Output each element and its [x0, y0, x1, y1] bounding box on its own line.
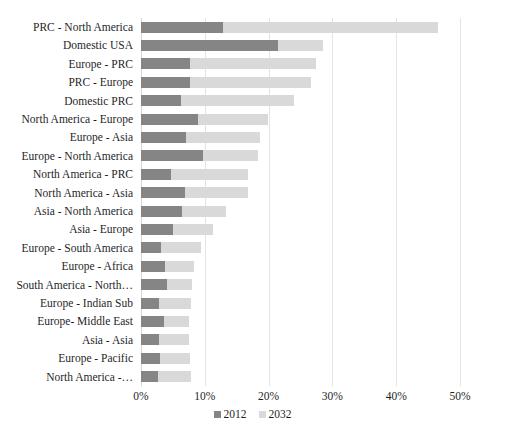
bar-row	[141, 202, 460, 220]
x-axis-tick: 50%	[449, 388, 470, 404]
legend-label: 2012	[224, 407, 247, 421]
bar-segment-2012	[141, 224, 173, 235]
bar-row	[141, 18, 460, 36]
bar-segment-2032	[203, 150, 259, 161]
bar-row	[141, 36, 460, 54]
bar-segment-2012	[141, 334, 159, 345]
chart-legend: 20122032	[0, 407, 505, 421]
category-label: Europe - South America	[22, 239, 133, 257]
category-label: Asia - North America	[34, 202, 133, 220]
bar-row	[141, 147, 460, 165]
bar-segment-2032	[161, 242, 201, 253]
bar-row	[141, 55, 460, 73]
bar-track	[141, 279, 460, 290]
bar-rows	[141, 18, 460, 386]
bar-segment-2032	[185, 187, 248, 198]
bar-segment-2032	[182, 206, 227, 217]
bar-segment-2012	[141, 298, 159, 309]
bar-track	[141, 206, 460, 217]
category-label: Europe - Asia	[70, 128, 133, 146]
bar-segment-2012	[141, 132, 186, 143]
category-label: Asia - Asia	[82, 331, 133, 349]
bar-segment-2032	[278, 40, 323, 51]
x-axis-tick: 10%	[194, 388, 215, 404]
legend-item[interactable]: 2032	[259, 407, 292, 421]
bar-segment-2012	[141, 22, 223, 33]
category-label: North America - Europe	[22, 110, 133, 128]
bar-segment-2032	[173, 224, 213, 235]
x-axis-tick: 20%	[258, 388, 279, 404]
x-axis-tick: 0%	[133, 388, 148, 404]
category-axis-labels: PRC - North AmericaDomestic USAEurope - …	[0, 18, 137, 386]
bar-segment-2032	[223, 22, 437, 33]
bar-track	[141, 224, 460, 235]
bar-track	[141, 58, 460, 69]
bar-segment-2012	[141, 206, 182, 217]
category-label: Europe - Indian Sub	[40, 294, 133, 312]
bar-row	[141, 312, 460, 330]
bar-segment-2012	[141, 353, 160, 364]
bar-segment-2032	[171, 169, 248, 180]
bar-segment-2012	[141, 95, 181, 106]
bar-row	[141, 220, 460, 238]
bar-track	[141, 298, 460, 309]
bar-track	[141, 261, 460, 272]
bar-segment-2032	[167, 279, 193, 290]
bar-track	[141, 132, 460, 143]
category-label: North America - PRC	[33, 165, 133, 183]
bar-segment-2012	[141, 58, 190, 69]
bar-segment-2012	[141, 169, 171, 180]
category-label: Europe- Middle East	[37, 312, 133, 330]
category-label: Europe - PRC	[68, 55, 133, 73]
stacked-bar-chart: PRC - North AmericaDomestic USAEurope - …	[0, 0, 505, 440]
category-label: Europe - Africa	[61, 257, 133, 275]
x-axis-tick: 30%	[322, 388, 343, 404]
bar-track	[141, 353, 460, 364]
bar-track	[141, 242, 460, 253]
bar-track	[141, 77, 460, 88]
bar-segment-2012	[141, 371, 158, 382]
bar-segment-2032	[186, 132, 259, 143]
bar-segment-2012	[141, 40, 278, 51]
gridline-50pct	[460, 18, 461, 386]
category-label: PRC - Europe	[68, 73, 133, 91]
bar-track	[141, 169, 460, 180]
bar-row	[141, 294, 460, 312]
bar-segment-2032	[158, 371, 191, 382]
bar-row	[141, 368, 460, 386]
bar-row	[141, 165, 460, 183]
category-label: PRC - North America	[33, 18, 133, 36]
category-label: North America - Asia	[34, 184, 133, 202]
bar-row	[141, 184, 460, 202]
bar-track	[141, 334, 460, 345]
legend-label: 2032	[269, 407, 292, 421]
bar-row	[141, 128, 460, 146]
bar-row	[141, 92, 460, 110]
bar-track	[141, 371, 460, 382]
bar-segment-2012	[141, 77, 190, 88]
legend-swatch-icon	[214, 411, 221, 418]
bar-segment-2032	[190, 77, 311, 88]
bar-segment-2032	[159, 298, 191, 309]
bar-segment-2012	[141, 242, 161, 253]
bar-segment-2032	[198, 114, 268, 125]
category-label: Domestic USA	[63, 36, 133, 54]
x-axis-tick: 40%	[386, 388, 407, 404]
bar-row	[141, 257, 460, 275]
bar-row	[141, 73, 460, 91]
bar-segment-2032	[159, 334, 189, 345]
bar-segment-2012	[141, 261, 165, 272]
category-label: Domestic PRC	[64, 92, 133, 110]
category-label: Europe - North America	[22, 147, 133, 165]
legend-item[interactable]: 2012	[214, 407, 247, 421]
bar-segment-2032	[160, 353, 190, 364]
category-label: North America -…	[46, 368, 133, 386]
bar-row	[141, 110, 460, 128]
bar-row	[141, 239, 460, 257]
bar-segment-2012	[141, 114, 198, 125]
bar-segment-2012	[141, 187, 185, 198]
bar-track	[141, 95, 460, 106]
plot-area	[141, 18, 460, 386]
bar-segment-2032	[181, 95, 294, 106]
value-axis-labels: 0%10%20%30%40%50%	[141, 388, 460, 408]
